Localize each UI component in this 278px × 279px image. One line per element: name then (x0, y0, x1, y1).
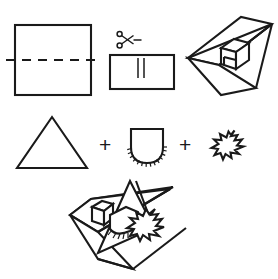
card-panel-outline (110, 55, 174, 89)
scene-popup-box-left-face (92, 207, 104, 225)
scissors-icon (117, 32, 141, 48)
plus-operator-left: + (99, 134, 111, 155)
plus-operator-right: + (179, 134, 191, 155)
triangle-outline (17, 117, 87, 168)
step-3-popup-box-card (183, 12, 277, 100)
part-2-fringed-bucket (126, 126, 170, 170)
step-1-folded-card (6, 20, 102, 102)
fir-tree-outline (212, 131, 244, 160)
part-1-triangle (14, 113, 92, 173)
part-3-fir-tree (209, 127, 253, 169)
step-2-cut-slit (106, 22, 178, 100)
result-assembled-popup-scene (58, 181, 194, 277)
diagram-canvas: + + (0, 0, 278, 279)
